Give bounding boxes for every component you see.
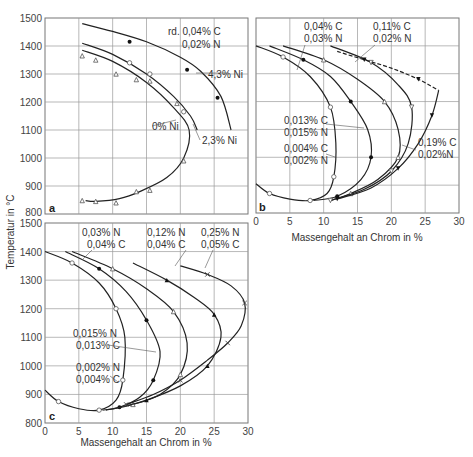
panel-a-label-rd: rd. 0,04% C (168, 26, 221, 37)
y-tick-label: 1300 (20, 69, 43, 80)
y-tick-label: 1100 (20, 125, 42, 136)
x-tick-label: 0 (253, 216, 259, 227)
panel-b-label-1a: 0,04% C (304, 21, 342, 32)
panel-b-letter: b (259, 201, 266, 213)
y-tick-label: 1500 (20, 218, 43, 229)
y-tick-label: 900 (25, 389, 42, 400)
panel-c: 8009001000110012001300140015000510152025… (20, 218, 254, 437)
x-tick-label: 5 (287, 216, 293, 227)
annotation-leader (193, 124, 200, 140)
y-tick-label: 1200 (20, 304, 43, 315)
series-curve (330, 46, 412, 201)
annotation-leader (205, 250, 213, 268)
y-tick-label: 1500 (20, 13, 43, 24)
x-tick-label: 15 (141, 426, 153, 437)
panel-c-label-3b: 0,05% C (201, 239, 239, 250)
panel-a-letter: a (49, 202, 56, 214)
panel-b-label-2a: 0,11% C (373, 21, 411, 32)
x-tick-label: 25 (209, 426, 221, 437)
x-axis-label-b: Massengehalt an Chrom in % (291, 232, 422, 243)
panel-b-label-5b: 0,02%N (418, 149, 454, 160)
y-tick-label: 1300 (20, 275, 43, 286)
panel-c-label-2a: 0,12% N (147, 227, 185, 238)
panel-c-label-5b: 0,004% C (76, 374, 120, 385)
panel-b-label-5a: 0,19% C (418, 137, 456, 148)
panel-a-label-ni43: 4,3% Ni (208, 69, 243, 80)
panel-a-label-n: 0,02% N (182, 39, 220, 50)
x-axis-label-c: Massengehalt an Chrom in % (80, 437, 211, 448)
x-tick-label: 5 (76, 426, 82, 437)
x-tick-label: 25 (420, 216, 432, 227)
y-tick-label: 800 (25, 207, 42, 218)
y-tick-label: 1100 (20, 332, 42, 343)
x-tick-label: 0 (42, 426, 48, 437)
y-tick-label: 1200 (20, 97, 43, 108)
x-tick-label: 20 (175, 426, 187, 437)
x-tick-label: 30 (242, 426, 254, 437)
figure: 900100011001200130014001500800 051015202… (0, 0, 473, 457)
panel-b-label-2b: 0,02% N (373, 33, 411, 44)
x-tick-label: 10 (107, 426, 119, 437)
panel-a-label-ni23: 2,3% Ni (202, 135, 237, 146)
panel-c-label-1b: 0,04% C (87, 239, 125, 250)
panel-c-label-1a: 0,03% N (82, 227, 120, 238)
panel-b-label-4a: 0,004% C (284, 143, 328, 154)
series-curve (337, 51, 439, 90)
y-tick-label: 1400 (20, 41, 43, 52)
y-axis-label: Temperatur in °C (5, 194, 16, 269)
y-tick-label: 1000 (20, 361, 43, 372)
annotation-leader (402, 145, 416, 150)
panel-c-label-3a: 0,25% N (201, 227, 239, 238)
annotation-leader (326, 124, 364, 128)
panel-b-label-3b: 0,015% N (284, 127, 328, 138)
panel-c-label-5a: 0,002% N (76, 362, 120, 373)
panel-c-letter: c (49, 410, 55, 422)
panel-b-label-4b: 0,002% N (284, 155, 328, 166)
x-tick-label: 10 (318, 216, 330, 227)
x-tick-label: 20 (386, 216, 398, 227)
y-tick-label: 1400 (20, 247, 43, 258)
x-tick-label: 15 (352, 216, 364, 227)
panel-c-label-4a: 0,015% N (73, 328, 117, 339)
y-tick-label: 1000 (20, 153, 43, 164)
y-tick-label: 900 (25, 181, 42, 192)
panel-c-label-2b: 0,04% C (147, 239, 185, 250)
panel-b-label-3a: 0,013% C (284, 115, 328, 126)
y-tick-label: 800 (25, 418, 42, 429)
x-tick-label: 30 (453, 216, 465, 227)
panel-b-label-1b: 0,03% N (304, 33, 342, 44)
